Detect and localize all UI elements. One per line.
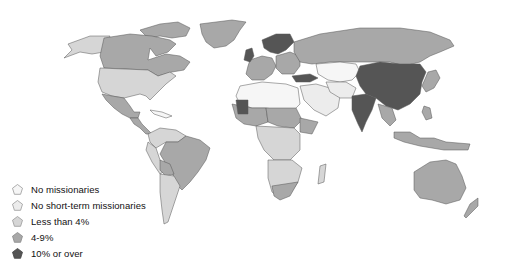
region-greenland — [200, 20, 246, 48]
legend-item-no-missionaries: No missionaries — [12, 181, 146, 197]
pentagon-swatch-icon — [12, 184, 23, 195]
region-mexico — [102, 94, 140, 118]
region-indonesia — [394, 132, 470, 150]
region-southern-cone — [160, 174, 180, 224]
region-horn-of-africa — [300, 118, 318, 134]
legend-item-less-than-4: Less than 4% — [12, 213, 146, 229]
region-central-asia — [316, 62, 360, 82]
map-legend: No missionaries No short-term missionari… — [12, 181, 146, 262]
region-scandinavia — [262, 34, 294, 54]
pentagon-swatch-icon — [12, 248, 23, 259]
region-mauritania — [236, 100, 248, 114]
region-caribbean — [150, 110, 172, 118]
region-sahel-east — [266, 108, 302, 128]
legend-item-4-to-9: 4-9% — [12, 230, 146, 246]
legend-label: Less than 4% — [31, 216, 89, 227]
region-new-zealand — [464, 198, 478, 218]
pentagon-swatch-icon — [12, 200, 23, 211]
region-russia — [294, 28, 454, 66]
pentagon-swatch-icon — [12, 216, 23, 227]
region-central-africa — [256, 126, 300, 160]
region-philippines — [422, 106, 432, 120]
legend-label: No short-term missionaries — [31, 200, 146, 211]
region-india — [352, 94, 376, 132]
pentagon-swatch-icon — [12, 232, 23, 243]
region-madagascar — [318, 164, 326, 184]
legend-item-no-short-term: No short-term missionaries — [12, 197, 146, 213]
legend-label: 4-9% — [31, 232, 53, 243]
legend-label: No missionaries — [31, 184, 99, 195]
legend-label: 10% or over — [31, 248, 83, 259]
legend-item-10-or-over: 10% or over — [12, 246, 146, 262]
region-turkey — [292, 74, 318, 82]
region-australia — [414, 160, 466, 204]
region-central-america — [130, 118, 152, 134]
